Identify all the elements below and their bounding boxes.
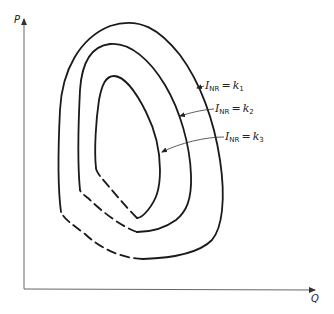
label-eq: = bbox=[221, 79, 230, 92]
axes bbox=[24, 19, 315, 290]
label-const-sub: 3 bbox=[259, 136, 263, 144]
label-eq: = bbox=[241, 130, 250, 143]
contour-middle-dashed bbox=[80, 190, 137, 232]
contour-outer-dashed bbox=[61, 212, 143, 259]
contour-label-k2: INR=k2 bbox=[215, 103, 254, 116]
contour-label-k1: INR=k1 bbox=[205, 80, 244, 93]
diagram-canvas bbox=[0, 0, 334, 314]
y-axis-label: P bbox=[14, 14, 20, 25]
label-sub: NR bbox=[219, 108, 229, 116]
contour-label-k3: INR=k3 bbox=[225, 131, 264, 144]
label-eq: = bbox=[231, 102, 240, 115]
label-const-sub: 2 bbox=[249, 108, 253, 116]
label-sub: NR bbox=[229, 136, 239, 144]
contour-outer bbox=[59, 23, 223, 259]
contour-diagram: P Q INR=k1 INR=k2 INR=k3 bbox=[0, 0, 334, 314]
contour-inner-dashed bbox=[96, 168, 137, 218]
leader-k3 bbox=[162, 137, 224, 152]
contour-inner-solid bbox=[95, 76, 160, 218]
x-axis-label: Q bbox=[311, 293, 319, 304]
label-const-sub: 1 bbox=[239, 85, 243, 93]
contour-outer-solid bbox=[59, 23, 223, 259]
label-sub: NR bbox=[209, 85, 219, 93]
contour-inner bbox=[95, 76, 160, 218]
x-axis bbox=[24, 289, 315, 290]
